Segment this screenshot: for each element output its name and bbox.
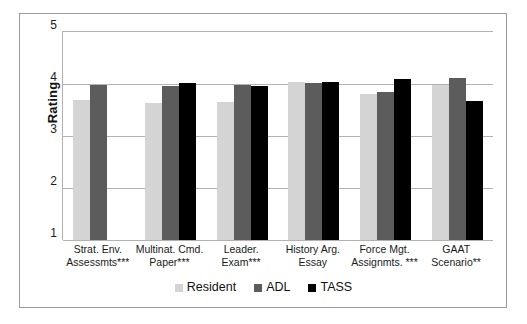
x-axis-label-line2: Paper*** (134, 256, 206, 269)
x-axis-label-line1: Leader. (205, 243, 277, 256)
bar-group (145, 32, 196, 240)
chart-figure: Rating 12345 Strat. Env.Assessmts***Mult… (0, 0, 527, 324)
legend-swatch-icon (254, 284, 262, 292)
x-axis-label-line1: Force Mgt. (349, 243, 421, 256)
x-axis-label-line1: Strat. Env. (62, 243, 134, 256)
x-axis-label: Strat. Env.Assessmts*** (62, 243, 134, 269)
x-axis-label-line2: Assignmts. *** (349, 256, 421, 269)
x-axis-label-line2: Assessmts*** (62, 256, 134, 269)
bar-group (217, 32, 268, 240)
bar[interactable] (251, 86, 268, 240)
x-axis-label: GAATScenario** (420, 243, 492, 269)
bar[interactable] (432, 85, 449, 240)
bar[interactable] (449, 78, 466, 240)
x-axis-label: Leader.Exam*** (205, 243, 277, 269)
bar[interactable] (466, 101, 483, 240)
bar[interactable] (234, 85, 251, 240)
legend-item[interactable]: TASS (308, 281, 352, 294)
y-tick-label: 1 (35, 227, 57, 239)
bar[interactable] (288, 82, 305, 240)
x-axis-label-line2: Essay (277, 256, 349, 269)
bar[interactable] (394, 79, 411, 240)
legend-item[interactable]: ADL (254, 281, 290, 294)
legend-item[interactable]: Resident (175, 281, 236, 294)
bar[interactable] (322, 82, 339, 240)
x-axis-label-line2: Scenario** (420, 256, 492, 269)
legend-swatch-icon (308, 284, 316, 292)
y-tick-label: 2 (35, 175, 57, 187)
x-axis-category-labels: Strat. Env.Assessmts***Multinat. Cmd.Pap… (62, 243, 494, 275)
bar-group (432, 32, 483, 240)
bar[interactable] (360, 94, 377, 240)
x-axis-label: Multinat. Cmd.Paper*** (134, 243, 206, 269)
y-tick-label: 3 (35, 123, 57, 135)
legend-label: ADL (266, 281, 290, 294)
bar[interactable] (217, 102, 234, 240)
x-axis-label-line1: Multinat. Cmd. (134, 243, 206, 256)
legend-swatch-icon (175, 284, 183, 292)
x-axis-label: Force Mgt.Assignmts. *** (349, 243, 421, 269)
bar[interactable] (73, 100, 90, 240)
bar[interactable] (162, 86, 179, 240)
chart-legend: ResidentADLTASS (0, 281, 527, 294)
x-axis-label-line1: GAAT (420, 243, 492, 256)
legend-label: Resident (187, 281, 236, 294)
bar-group (288, 32, 339, 240)
plot-area (62, 31, 493, 240)
y-tick-label: 4 (35, 71, 57, 83)
bar-group (73, 32, 124, 240)
x-axis-label-line1: History Arg. (277, 243, 349, 256)
legend-label: TASS (320, 281, 352, 294)
bar-group (360, 32, 411, 240)
bar[interactable] (305, 83, 322, 240)
x-axis-label-line2: Exam*** (205, 256, 277, 269)
bar[interactable] (145, 103, 162, 240)
bar[interactable] (377, 92, 394, 240)
bar[interactable] (179, 83, 196, 240)
bar[interactable] (90, 85, 107, 240)
x-axis-label: History Arg.Essay (277, 243, 349, 269)
y-tick-label: 5 (35, 19, 57, 31)
x-axis-baseline (63, 240, 493, 241)
y-axis-tick-labels: 12345 (35, 25, 57, 245)
bars-layer (63, 32, 493, 240)
